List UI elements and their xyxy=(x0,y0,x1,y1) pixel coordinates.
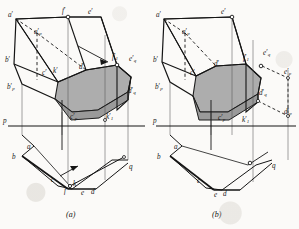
label-plan-q-b: q xyxy=(272,163,276,170)
plan-edge-b-c-a xyxy=(22,156,68,189)
label-plan-b-a: b xyxy=(12,154,16,161)
label-plan-c-b: c xyxy=(197,178,200,185)
label-e-prime-q: e′q xyxy=(129,56,136,63)
label-plan-a-a: a xyxy=(27,144,31,151)
label-k-prime-1: k′1 xyxy=(106,114,113,121)
caption-a: (a) xyxy=(66,210,75,219)
label-c-prime: c′ xyxy=(42,70,47,77)
label-c-prime-p-b: c′p xyxy=(218,115,225,122)
label-plan-b-b: b xyxy=(157,154,161,161)
label-plan-d-b: d xyxy=(223,191,227,198)
label-k-prime: k′ xyxy=(53,68,58,75)
label-e-prime-q-b: e′q xyxy=(263,50,270,57)
edge-a-c-b xyxy=(164,19,196,76)
label-e-prime-b: e′ xyxy=(221,9,226,16)
label-plan-d-a: d xyxy=(91,189,95,196)
label-d-prime: d′ xyxy=(79,64,84,71)
label-f-prime-1: f′1 xyxy=(112,54,118,61)
label-e-prime-p-b: e′p xyxy=(284,69,291,76)
figure-linework xyxy=(0,0,299,229)
label-d-prime-p-b: d′p xyxy=(284,109,292,116)
node-f-prime-a xyxy=(66,15,70,19)
label-axis-p-b: p xyxy=(153,118,157,125)
plan-outline-b xyxy=(170,135,272,190)
label-a-prime-p-b: a′p xyxy=(182,29,190,36)
label-plan-e-b: e xyxy=(214,192,217,199)
label-plan-c-a: c xyxy=(51,177,54,184)
node-eq-prime-b xyxy=(259,64,263,68)
label-e-prime: e′ xyxy=(88,9,93,16)
node-e-prime-b xyxy=(230,15,234,19)
label-c-prime-p: c′p xyxy=(70,114,77,121)
edge-a-e-b xyxy=(164,17,232,19)
plan-node-k-b xyxy=(248,161,252,165)
plan-edge-k-q-a xyxy=(70,157,124,186)
label-b-prime: b′ xyxy=(5,57,10,64)
label-k-prime-1-b: k′1 xyxy=(242,117,249,124)
label-plan-a-b: a xyxy=(174,144,178,151)
figure-root: a′ a′p f′ e′ b′ b′p c′ k′ d′ f′1 e′q d′q… xyxy=(0,0,299,229)
hidden-edge-ap-d-b xyxy=(185,33,216,66)
label-a-prime: a′ xyxy=(8,12,13,19)
plan-edge-b-c-b xyxy=(170,156,214,190)
label-plan-q-a: q xyxy=(129,164,133,171)
label-plan-f-a: f xyxy=(64,188,66,195)
label-d-prime-b: d′ xyxy=(214,61,219,68)
plan-node-k-a xyxy=(68,184,71,187)
plan-edge-d-right-a xyxy=(96,163,128,189)
label-axis-p-a: p xyxy=(3,118,7,125)
label-plan-k-a: k xyxy=(73,181,76,188)
label-a-prime-p: a′p xyxy=(34,29,42,36)
label-d-prime-q-b: d′q xyxy=(259,90,267,97)
node-f1-prime-a xyxy=(115,63,119,67)
plan-node-q-a xyxy=(123,156,126,159)
node-dq-prime-b xyxy=(256,99,259,102)
node-ep-prime-b xyxy=(287,77,290,80)
label-f-prime: f′ xyxy=(62,8,66,15)
label-f-prime-1-b: f′1 xyxy=(243,55,249,62)
label-d-prime-q: d′q xyxy=(128,88,136,95)
label-b-prime-p: b′p xyxy=(7,84,15,91)
plan-edge-d-right-b xyxy=(240,163,272,190)
caption-b: (b) xyxy=(212,210,221,219)
plan-edge-a-k-b xyxy=(182,146,248,165)
panel-a-geometry xyxy=(8,15,145,189)
label-plan-e-a: e xyxy=(81,190,84,197)
label-a-prime-b: a′ xyxy=(156,12,161,19)
label-b-prime-b: b′ xyxy=(153,57,158,64)
label-b-prime-p-b: b′p xyxy=(155,84,163,91)
label-c-prime-b: c′ xyxy=(190,70,195,77)
